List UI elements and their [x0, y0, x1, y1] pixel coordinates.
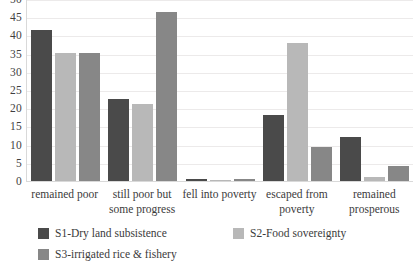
bar-group [336, 0, 413, 182]
x-axis-category-label: remained poor [26, 186, 103, 224]
bar-groups [27, 0, 413, 182]
y-axis: 50454035302520151050 [0, 0, 24, 186]
y-axis-tick-label: 30 [10, 67, 22, 79]
x-axis-labels: remained poorstill poor but some progres… [26, 186, 413, 224]
bar[interactable] [311, 147, 332, 182]
bar[interactable] [287, 43, 308, 182]
bar[interactable] [55, 53, 76, 182]
y-axis-tick-label: 35 [10, 49, 22, 61]
bar-group [104, 0, 181, 182]
bar-chart: 50454035302520151050 remained poorstill … [0, 0, 415, 275]
y-axis-tick-label: 50 [10, 0, 22, 6]
legend-label: S2-Food sovereignty [250, 228, 346, 240]
bar[interactable] [79, 53, 100, 182]
legend-label: S1-Dry land subsistence [55, 228, 167, 240]
x-axis-category-label: fell into poverty [181, 186, 258, 224]
x-axis-category-label: remained prosperous [336, 186, 413, 224]
legend-item[interactable]: S1-Dry land subsistence [38, 228, 167, 240]
bar[interactable] [132, 104, 153, 182]
plot-wrapper: 50454035302520151050 [0, 0, 415, 186]
legend-swatch-icon [233, 228, 244, 239]
y-axis-tick-label: 25 [10, 85, 22, 97]
x-axis-category-label: still poor but some progress [103, 186, 180, 224]
bar[interactable] [388, 166, 409, 182]
legend-swatch-icon [38, 228, 49, 239]
bar[interactable] [31, 30, 52, 182]
bar[interactable] [108, 99, 129, 182]
y-axis-tick-label: 40 [10, 31, 22, 43]
plot-area [26, 0, 413, 182]
y-axis-tick-label: 20 [10, 103, 22, 115]
y-axis-tick-label: 45 [10, 12, 22, 24]
bar[interactable] [340, 137, 361, 182]
bar[interactable] [156, 12, 177, 182]
y-axis-tick-label: 5 [16, 158, 22, 170]
bar[interactable] [263, 115, 284, 182]
y-axis-tick-label: 0 [16, 176, 22, 188]
bar-group [259, 0, 336, 182]
legend-swatch-icon [38, 249, 49, 260]
legend-label: S3-irrigated rice & fishery [55, 249, 177, 261]
bar-group [27, 0, 104, 182]
bar-group [181, 0, 258, 182]
x-axis-category-label: escaped from poverty [258, 186, 335, 224]
chart-legend: S1-Dry land subsistenceS2-Food sovereign… [0, 224, 415, 275]
legend-item[interactable]: S3-irrigated rice & fishery [38, 249, 177, 261]
y-axis-tick-label: 10 [10, 140, 22, 152]
axis-baseline [27, 181, 413, 182]
legend-item[interactable]: S2-Food sovereignty [233, 228, 346, 240]
y-axis-tick-label: 15 [10, 122, 22, 134]
